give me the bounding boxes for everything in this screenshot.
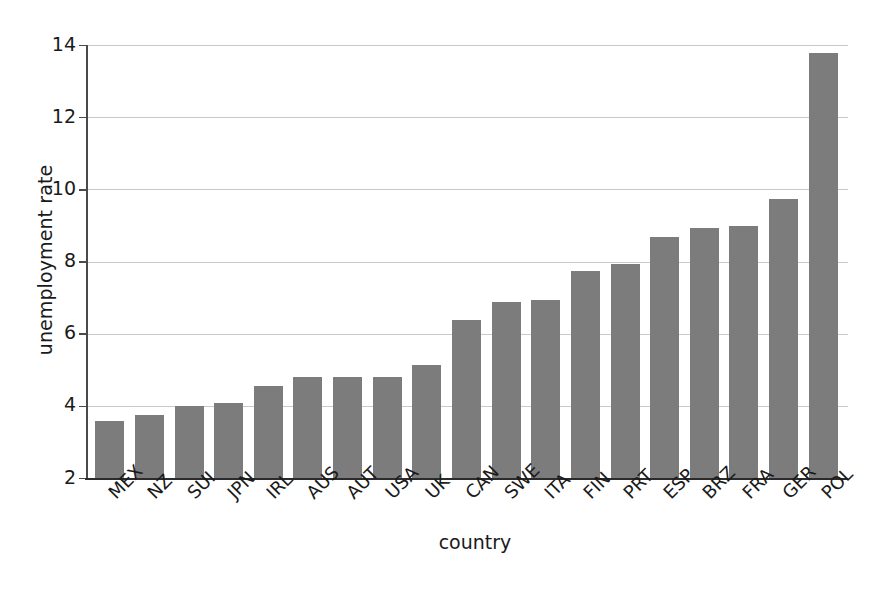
- x-tick-label: UK: [421, 470, 454, 503]
- x-tick-label: SUI: [183, 466, 219, 502]
- x-tick-label: PRT: [619, 464, 657, 502]
- x-tick-label: SWE: [500, 459, 544, 503]
- x-tick-label: ITA: [540, 468, 574, 502]
- x-tick-label: JPN: [223, 467, 259, 503]
- x-tick-label: FRA: [738, 463, 777, 502]
- bar-chart: unemployment rate 1412108642 MEXNZSUIJPN…: [0, 0, 878, 589]
- x-tick-label: BRZ: [698, 461, 739, 502]
- x-tick-label: USA: [381, 461, 422, 502]
- x-axis-ticks: MEXNZSUIJPNIRLAUSAUTUSAUKCANSWEITAFINPRT…: [0, 0, 878, 589]
- x-tick-label: FIN: [579, 467, 614, 502]
- x-tick-label: POL: [817, 463, 857, 503]
- x-tick-label: GER: [778, 461, 820, 503]
- x-tick-label: IRL: [262, 468, 297, 503]
- x-tick-label: AUS: [302, 461, 343, 502]
- x-tick-label: NZ: [143, 469, 176, 502]
- x-tick-label: ESP: [659, 464, 698, 503]
- x-axis-title: country: [90, 531, 860, 553]
- x-tick-label: CAN: [461, 460, 503, 502]
- x-tick-label: AUT: [342, 462, 383, 503]
- x-tick-label: MEX: [104, 460, 147, 503]
